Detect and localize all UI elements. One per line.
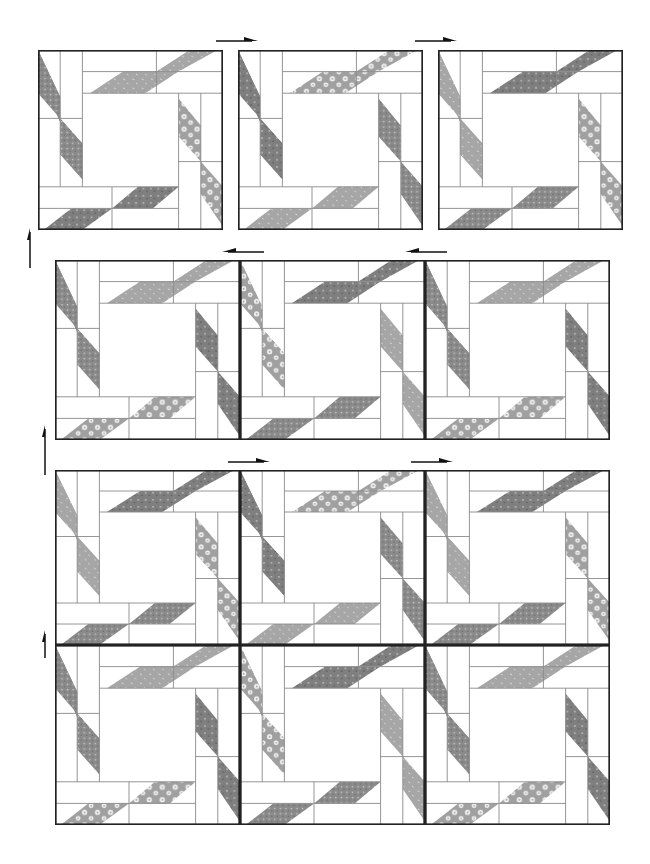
quilt-block [240, 260, 425, 440]
quilt-block [240, 470, 425, 645]
arrow-right-icon [415, 36, 457, 44]
quilt-block [55, 645, 240, 825]
arrow-right-icon [411, 457, 453, 465]
quilt-block [38, 50, 223, 230]
quilt-block [55, 470, 240, 645]
arrow-left-icon [405, 247, 447, 255]
arrow-right-icon [216, 36, 258, 44]
quilt-block [238, 50, 423, 230]
arrow-right-icon [228, 457, 270, 465]
arrow-left-icon [222, 247, 264, 255]
quilt-block [425, 470, 610, 645]
quilt-block [425, 260, 610, 440]
quilt-block [55, 260, 240, 440]
arrow-up-icon [26, 228, 34, 268]
quilt-block [438, 50, 623, 230]
quilt-block [240, 645, 425, 825]
arrow-up-icon [41, 425, 49, 475]
quilt-block [425, 645, 610, 825]
arrow-up-icon [41, 630, 49, 658]
